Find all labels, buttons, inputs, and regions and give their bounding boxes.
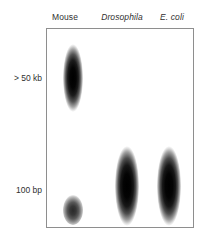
- band-drosophila-low-molecular-weight: [115, 146, 139, 226]
- size-marker-low-molecular-weight: 100 bp: [2, 185, 42, 195]
- gel-box: [46, 28, 194, 228]
- gel-electrophoresis-figure: Mouse Drosophila E. coli > 50 kb 100 bp: [0, 0, 205, 238]
- lane-label-ecoli: E. coli: [152, 12, 192, 22]
- size-marker-high-molecular-weight: > 50 kb: [2, 73, 42, 83]
- band-mouse-high-molecular-weight: [63, 44, 83, 112]
- lane-label-mouse: Mouse: [46, 12, 84, 22]
- band-mouse-low-molecular-weight: [63, 195, 83, 225]
- lane-label-drosophila: Drosophila: [93, 12, 151, 22]
- band-ecoli-low-molecular-weight: [157, 146, 181, 226]
